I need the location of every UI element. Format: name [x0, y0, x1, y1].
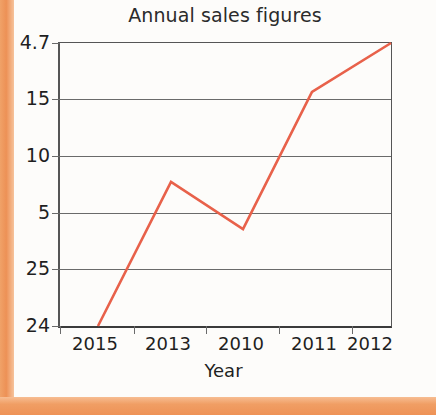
y-tick-label: 24: [26, 314, 50, 336]
x-tick-label: 2010: [218, 333, 264, 354]
data-series-line: [60, 43, 391, 326]
series-polyline: [98, 43, 391, 326]
y-axis-labels: 4.7 15 10 5 25 24: [0, 42, 50, 325]
decorative-bottom-border: [0, 397, 436, 415]
y-tick-mark: [52, 269, 60, 270]
chart-title: Annual sales figures: [14, 4, 436, 26]
y-tick-mark: [52, 99, 60, 100]
y-tick-label: 4.7: [20, 31, 50, 53]
y-tick-label: 25: [26, 257, 50, 279]
y-tick-mark: [52, 326, 60, 327]
chart-figure: Annual sales figures 4.7 15 10 5 25 24 2…: [0, 0, 436, 415]
y-tick-mark: [52, 213, 60, 214]
x-tick-label: 2012: [347, 333, 393, 354]
y-tick-mark: [52, 43, 60, 44]
y-tick-mark: [52, 156, 60, 157]
x-axis-title: Year: [58, 360, 389, 381]
x-axis-labels: 2015 2013 2010 2011 2012: [58, 333, 389, 359]
x-tick-label: 2013: [145, 333, 191, 354]
y-tick-label: 10: [26, 144, 50, 166]
y-tick-label: 5: [38, 201, 50, 223]
y-tick-label: 15: [26, 87, 50, 109]
x-tick-label: 2011: [291, 333, 337, 354]
x-tick-label: 2015: [72, 333, 118, 354]
plot-area: [58, 42, 392, 328]
